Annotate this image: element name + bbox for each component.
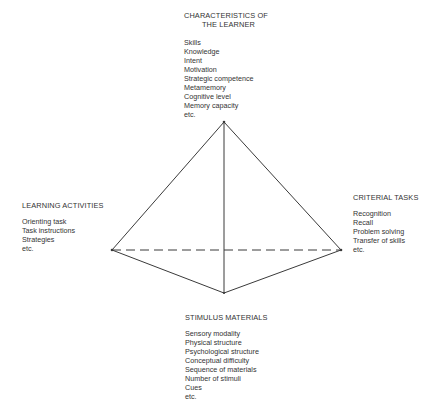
- list-item: Problem solving: [353, 227, 418, 236]
- list-item: etc.: [185, 392, 268, 401]
- list-item: Strategies: [22, 235, 104, 244]
- list-item: Memory capacity: [184, 101, 268, 110]
- list-item: Conceptual difficulty: [185, 356, 268, 365]
- list-item: Number of stimuli: [185, 374, 268, 383]
- criterial-tasks-list: Recognition Recall Problem solving Trans…: [353, 209, 418, 254]
- edge-left-bottom: [112, 250, 224, 293]
- learning-activities-list: Orienting task Task instructions Strateg…: [22, 217, 104, 253]
- edge-top-left: [112, 122, 224, 250]
- list-item: Metamemory: [184, 83, 268, 92]
- vertex-bottom: [223, 292, 225, 294]
- list-item: Intent: [184, 56, 268, 65]
- list-item: etc.: [184, 110, 268, 119]
- list-item: Cognitive level: [184, 92, 268, 101]
- list-item: Motivation: [184, 65, 268, 74]
- list-item: Physical structure: [185, 338, 268, 347]
- list-item: Sequence of materials: [185, 365, 268, 374]
- vertex-left: [111, 249, 114, 252]
- stimulus-materials-block: STIMULUS MATERIALS Sensory modality Phys…: [185, 313, 268, 401]
- list-item: etc.: [22, 244, 104, 253]
- learner-items-list: Skills Knowledge Intent Motivation Strat…: [184, 38, 268, 119]
- vertex-top: [223, 121, 226, 124]
- list-item: Transfer of skills: [353, 236, 418, 245]
- learner-title-line1: CHARACTERISTICS OF: [184, 11, 268, 20]
- list-item: Cues: [185, 383, 268, 392]
- learner-characteristics-block: CHARACTERISTICS OF THE LEARNER Skills Kn…: [184, 11, 268, 119]
- stimulus-materials-title: STIMULUS MATERIALS: [185, 313, 268, 322]
- edge-top-right: [224, 122, 341, 250]
- list-item: Recognition: [353, 209, 418, 218]
- list-item: Strategic competence: [184, 74, 268, 83]
- list-item: etc.: [353, 245, 418, 254]
- learner-title-line2: THE LEARNER: [184, 20, 268, 29]
- stimulus-materials-list: Sensory modality Physical structure Psyc…: [185, 329, 268, 401]
- edge-right-bottom: [224, 250, 341, 293]
- list-item: Skills: [184, 38, 268, 47]
- learning-activities-block: LEARNING ACTIVITIES Orienting task Task …: [22, 201, 104, 253]
- vertex-right: [340, 249, 343, 252]
- list-item: Sensory modality: [185, 329, 268, 338]
- learning-activities-title: LEARNING ACTIVITIES: [22, 201, 104, 210]
- list-item: Orienting task: [22, 217, 104, 226]
- list-item: Recall: [353, 218, 418, 227]
- criterial-tasks-block: CRITERIAL TASKS Recognition Recall Probl…: [353, 193, 418, 254]
- list-item: Knowledge: [184, 47, 268, 56]
- list-item: Task instructions: [22, 226, 104, 235]
- criterial-tasks-title: CRITERIAL TASKS: [353, 193, 418, 202]
- list-item: Psychological structure: [185, 347, 268, 356]
